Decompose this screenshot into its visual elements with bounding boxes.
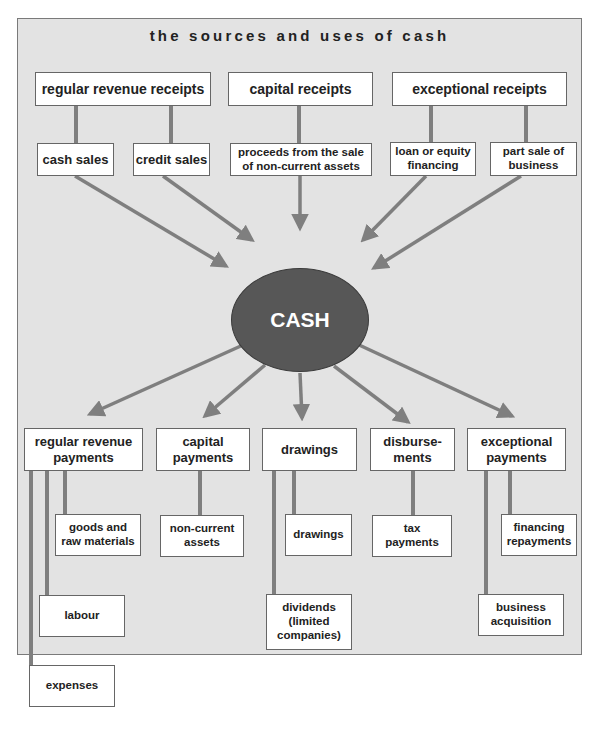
source-part-sale-of-business: part sale of business: [490, 142, 577, 176]
source-credit-sales: credit sales: [133, 143, 210, 176]
use-labour: labour: [39, 595, 125, 637]
use-capital-payments: capital payments: [156, 428, 250, 471]
use-financing-repayments: financing repayments: [501, 514, 577, 556]
source-capital-receipts: capital receipts: [228, 72, 373, 106]
use-disbursements: disburse- ments: [370, 428, 455, 471]
cash-ellipse: CASH: [231, 268, 369, 372]
cash-label: CASH: [270, 308, 330, 332]
use-dividends-limited-companies: dividends (limited companies): [266, 594, 352, 650]
source-loan-or-equity-financing: loan or equity financing: [390, 142, 476, 176]
use-regular-revenue-payments: regular revenue payments: [24, 428, 143, 471]
use-exceptional-payments: exceptional payments: [467, 428, 566, 471]
source-regular-revenue-receipts: regular revenue receipts: [35, 72, 211, 106]
source-exceptional-receipts: exceptional receipts: [392, 72, 567, 106]
use-expenses: expenses: [29, 665, 115, 707]
use-goods-and-raw-materials: goods and raw materials: [55, 514, 141, 556]
source-cash-sales: cash sales: [37, 143, 114, 176]
use-drawings: drawings: [262, 428, 357, 471]
use-tax-payments: tax payments: [372, 515, 452, 557]
source-proceeds-non-current-assets: proceeds from the sale of non-current as…: [230, 143, 372, 176]
use-non-current-assets: non-current assets: [160, 515, 244, 557]
use-drawings-child: drawings: [285, 514, 352, 556]
use-business-acquisition: business acquisition: [478, 594, 564, 636]
